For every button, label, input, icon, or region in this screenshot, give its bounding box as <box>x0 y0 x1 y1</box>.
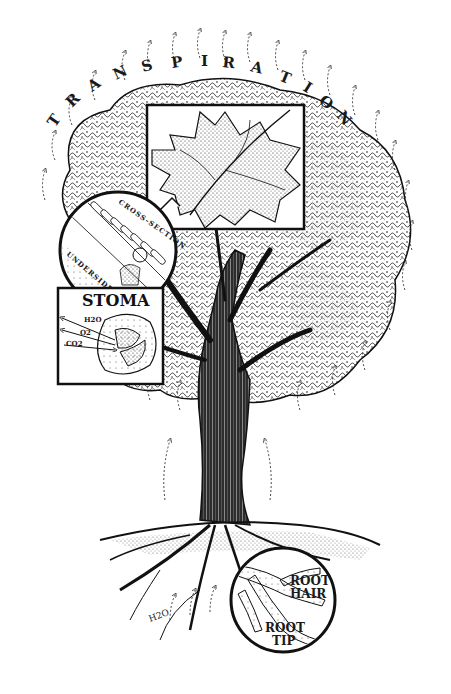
title-letter: A <box>83 74 104 96</box>
ground-water-label: H2O <box>147 607 170 624</box>
title-letter: R <box>222 53 237 72</box>
title-letter: N <box>110 61 130 83</box>
stoma-inset: STOMA H2O O2 CO2 <box>58 288 163 384</box>
leaf-inset <box>147 105 304 229</box>
title-letter: R <box>62 89 84 111</box>
stoma-h2o-label: H2O <box>84 315 102 324</box>
title-letter: A <box>248 57 265 78</box>
title-letter: T <box>44 110 66 130</box>
root-tip-label-line2: TIP <box>272 634 296 648</box>
stoma-title: STOMA <box>82 291 150 310</box>
root-hair-inset: ROOT HAIR ROOT TIP <box>231 548 335 652</box>
title-letter: P <box>170 53 184 72</box>
illustration-canvas: T R A N S P I R A T I O N <box>0 0 451 694</box>
stoma-co2-label: CO2 <box>66 339 83 348</box>
root-hair-label-line1: ROOT <box>290 574 330 588</box>
transpiration-diagram: T R A N S P I R A T I O N <box>0 0 451 694</box>
stoma-o2-label: O2 <box>80 328 91 337</box>
title-letter: I <box>201 52 208 70</box>
root-tip-label-line1: ROOT <box>265 621 305 635</box>
title-letter: S <box>139 56 154 76</box>
title-letter: T <box>277 67 295 88</box>
root-hair-label-line2: HAIR <box>290 587 327 601</box>
title-letter: I <box>300 78 316 97</box>
